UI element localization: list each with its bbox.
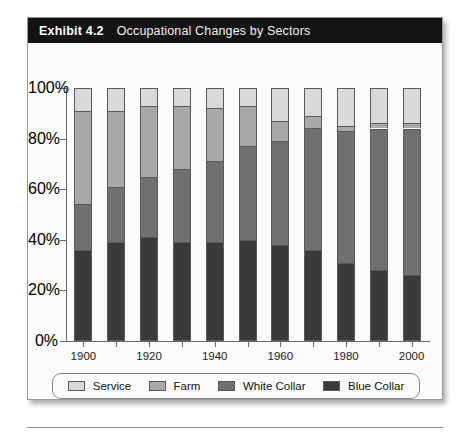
bar-segment-white-collar xyxy=(271,141,289,245)
legend-swatch-icon xyxy=(323,381,340,391)
bar-segment-farm xyxy=(239,106,257,146)
y-tick-mark xyxy=(60,189,66,190)
bar-segment-blue-collar xyxy=(206,242,224,341)
bar-segment-farm xyxy=(206,108,224,161)
bar-column xyxy=(403,88,421,341)
bar-segment-blue-collar xyxy=(140,237,158,341)
x-axis-tick-label: 1900 xyxy=(71,350,97,362)
bar-segment-farm xyxy=(107,111,125,187)
bar-segment-service xyxy=(140,88,158,106)
bar-segment-farm xyxy=(403,123,421,128)
bar-column xyxy=(206,88,224,341)
y-axis-tick-label: 100% xyxy=(28,79,58,97)
bar-segment-blue-collar xyxy=(337,263,355,341)
bar-segment-service xyxy=(403,88,421,123)
x-tick-mark xyxy=(248,342,249,347)
x-axis-tick-label: 2000 xyxy=(399,350,425,362)
bar-segment-white-collar xyxy=(370,129,388,271)
legend-swatch-icon xyxy=(149,381,166,391)
x-axis-tick-label: 1920 xyxy=(136,350,162,362)
chart-legend: ServiceFarmWhite CollarBlue Collar xyxy=(52,373,420,399)
chart-area: 0%20%40%60%80%100% 190019201940196019802… xyxy=(28,43,444,400)
bar-segment-blue-collar xyxy=(239,240,257,341)
bar-column xyxy=(74,88,92,341)
y-tick-mark xyxy=(60,240,66,241)
bar-segment-white-collar xyxy=(107,187,125,243)
y-axis-tick-label: 40% xyxy=(28,231,58,249)
bar-segment-white-collar xyxy=(173,169,191,242)
x-axis-tick-label: 1940 xyxy=(202,350,228,362)
bar-segment-blue-collar xyxy=(74,250,92,341)
bar-column xyxy=(271,88,289,341)
bar-segment-white-collar xyxy=(337,131,355,263)
x-tick-mark xyxy=(313,342,314,347)
x-tick-mark xyxy=(379,342,380,347)
bar-segment-white-collar xyxy=(74,204,92,250)
bar-column xyxy=(173,88,191,341)
bar-column xyxy=(337,88,355,341)
bar-segment-blue-collar xyxy=(107,242,125,341)
bar-segment-white-collar xyxy=(403,129,421,276)
bar-segment-blue-collar xyxy=(173,242,191,341)
bar-segment-service xyxy=(206,88,224,108)
exhibit-title: Occupational Changes by Sectors xyxy=(117,24,311,38)
x-axis-tick-label: 1960 xyxy=(268,350,294,362)
bar-column xyxy=(239,88,257,341)
legend-item[interactable]: Farm xyxy=(149,380,201,392)
legend-swatch-icon xyxy=(68,381,85,391)
legend-item[interactable]: Service xyxy=(68,380,131,392)
x-tick-mark xyxy=(346,342,347,347)
bar-column xyxy=(370,88,388,341)
bar-segment-white-collar xyxy=(239,146,257,240)
bar-segment-farm xyxy=(173,106,191,169)
bar-segment-farm xyxy=(337,126,355,131)
bar-segment-white-collar xyxy=(140,177,158,238)
y-tick-mark xyxy=(60,290,66,291)
x-tick-mark xyxy=(116,342,117,347)
y-axis-tick-label: 20% xyxy=(28,281,58,299)
bar-segment-blue-collar xyxy=(403,275,421,341)
bar-column xyxy=(107,88,125,341)
plot-bars xyxy=(67,88,428,341)
bar-segment-blue-collar xyxy=(271,245,289,341)
legend-label: Blue Collar xyxy=(348,380,404,392)
bar-segment-farm xyxy=(140,106,158,177)
legend-label: Service xyxy=(93,380,131,392)
bar-segment-service xyxy=(239,88,257,106)
bar-segment-service xyxy=(370,88,388,123)
page-divider-rule xyxy=(27,427,443,428)
bar-column xyxy=(304,88,322,341)
y-tick-mark xyxy=(60,139,66,140)
exhibit-panel: Exhibit 4.2 Occupational Changes by Sect… xyxy=(27,17,443,400)
y-tick-mark xyxy=(60,341,66,342)
x-tick-mark xyxy=(215,342,216,347)
bar-segment-blue-collar xyxy=(304,250,322,341)
bar-segment-blue-collar xyxy=(370,270,388,341)
x-tick-mark xyxy=(182,342,183,347)
bar-segment-service xyxy=(304,88,322,116)
bar-segment-service xyxy=(107,88,125,111)
x-tick-mark xyxy=(280,342,281,347)
y-axis-tick-label: 0% xyxy=(28,332,58,350)
bar-column xyxy=(140,88,158,341)
bar-segment-farm xyxy=(74,111,92,205)
exhibit-number: Exhibit 4.2 xyxy=(39,24,104,38)
legend-item[interactable]: Blue Collar xyxy=(323,380,404,392)
legend-swatch-icon xyxy=(218,381,235,391)
bar-segment-farm xyxy=(271,121,289,141)
y-axis-tick-label: 80% xyxy=(28,130,58,148)
bar-segment-white-collar xyxy=(206,161,224,242)
bar-segment-service xyxy=(74,88,92,111)
y-axis-tick-label: 60% xyxy=(28,180,58,198)
bar-segment-white-collar xyxy=(304,128,322,249)
legend-item[interactable]: White Collar xyxy=(218,380,306,392)
exhibit-header: Exhibit 4.2 Occupational Changes by Sect… xyxy=(28,18,442,43)
x-tick-mark xyxy=(83,342,84,347)
bar-segment-service xyxy=(337,88,355,126)
bar-segment-farm xyxy=(370,123,388,128)
bar-segment-farm xyxy=(304,116,322,129)
x-axis-tick-label: 1980 xyxy=(333,350,359,362)
bar-segment-service xyxy=(271,88,289,121)
x-tick-mark xyxy=(412,342,413,347)
legend-label: White Collar xyxy=(243,380,306,392)
